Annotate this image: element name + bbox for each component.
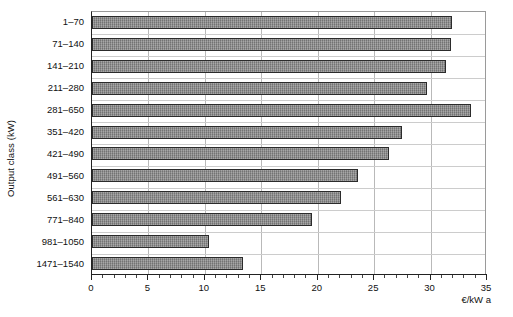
y-axis-tick-label: 491–560: [14, 165, 89, 187]
x-axis-major-tick: [147, 275, 148, 280]
y-axis-tick-label: 771–840: [14, 209, 89, 231]
x-axis-minor-tick: [170, 275, 171, 278]
x-axis-minor-tick: [294, 275, 295, 278]
x-axis-line: [91, 274, 487, 275]
y-axis-tick-label: 351–420: [14, 121, 89, 143]
x-axis-minor-tick: [102, 275, 103, 278]
y-axis-tick-label: 211–280: [14, 77, 89, 99]
bar-slot: [92, 99, 485, 121]
plot-area: [91, 11, 486, 275]
bar-slot: [92, 165, 485, 187]
bar: [92, 16, 452, 29]
bar-slot: [92, 12, 485, 34]
bar-slot: [92, 230, 485, 252]
x-axis-tick-label: 5: [145, 282, 150, 293]
x-axis-minor-tick: [339, 275, 340, 278]
bar: [92, 257, 243, 270]
y-axis-tick-label: 281–650: [14, 99, 89, 121]
x-axis-minor-tick: [362, 275, 363, 278]
x-axis-major-tick: [486, 275, 487, 280]
x-axis-minor-tick: [114, 275, 115, 278]
bar: [92, 147, 389, 160]
y-axis-tick-label: 981–1050: [14, 231, 89, 253]
x-axis-major-tick: [430, 275, 431, 280]
x-axis-tick-label: 30: [424, 282, 435, 293]
x-axis-minor-tick: [407, 275, 408, 278]
x-axis-minor-tick: [193, 275, 194, 278]
bar: [92, 191, 341, 204]
x-axis-minor-tick: [215, 275, 216, 278]
bar-slot: [92, 121, 485, 143]
x-axis-minor-tick: [418, 275, 419, 278]
bar: [92, 213, 312, 226]
x-axis-major-tick: [260, 275, 261, 280]
bar-slot: [92, 34, 485, 56]
x-axis-major-tick: [373, 275, 374, 280]
x-axis-minor-tick: [475, 275, 476, 278]
bar-slot: [92, 252, 485, 274]
x-axis-minor-tick: [396, 275, 397, 278]
y-axis-tick-label: 421–490: [14, 143, 89, 165]
x-axis-minor-tick: [226, 275, 227, 278]
x-axis-major-tick: [204, 275, 205, 280]
x-axis-tick-label: 25: [368, 282, 379, 293]
x-axis-major-tick: [91, 275, 92, 280]
y-axis-tick-label: 71–140: [14, 33, 89, 55]
bar-series: [92, 12, 485, 274]
x-axis-minor-tick: [452, 275, 453, 278]
x-axis-minor-tick: [181, 275, 182, 278]
x-axis-minor-tick: [384, 275, 385, 278]
x-axis-tick-label: 20: [311, 282, 322, 293]
x-axis-tick-label: 0: [88, 282, 93, 293]
x-axis-major-tick: [317, 275, 318, 280]
bar: [92, 60, 446, 73]
bar: [92, 126, 402, 139]
y-axis-tick-labels: 1–7071–140141–210211–280281–650351–42042…: [14, 11, 89, 275]
bar-slot: [92, 187, 485, 209]
x-axis-minor-tick: [328, 275, 329, 278]
y-axis-tick-label: 1–70: [14, 11, 89, 33]
bar-slot: [92, 208, 485, 230]
x-axis-minor-tick: [463, 275, 464, 278]
y-axis-tick-label: 561–630: [14, 187, 89, 209]
x-axis-minor-tick: [125, 275, 126, 278]
x-axis-minor-tick: [305, 275, 306, 278]
x-axis-minor-tick: [238, 275, 239, 278]
x-axis-minor-tick: [351, 275, 352, 278]
bar: [92, 235, 209, 248]
bar-slot: [92, 56, 485, 78]
x-axis-minor-tick: [272, 275, 273, 278]
bar: [92, 38, 451, 51]
bar-slot: [92, 77, 485, 99]
bar: [92, 169, 358, 182]
x-axis-minor-tick: [136, 275, 137, 278]
y-axis-tick-label: 1471–1540: [14, 253, 89, 275]
bar: [92, 82, 427, 95]
bar: [92, 104, 471, 117]
x-axis-minor-tick: [249, 275, 250, 278]
x-axis-title: €/kW a: [461, 294, 491, 305]
bar-chart-figure: Output class (kW) 1–7071–140141–210211–2…: [0, 0, 513, 317]
x-axis-tick-label: 10: [199, 282, 210, 293]
x-axis-minor-tick: [159, 275, 160, 278]
x-axis-minor-tick: [283, 275, 284, 278]
x-axis-tick-label: 15: [255, 282, 266, 293]
y-axis-tick-label: 141–210: [14, 55, 89, 77]
x-axis-minor-tick: [441, 275, 442, 278]
x-axis-tick-label: 35: [481, 282, 492, 293]
bar-slot: [92, 143, 485, 165]
